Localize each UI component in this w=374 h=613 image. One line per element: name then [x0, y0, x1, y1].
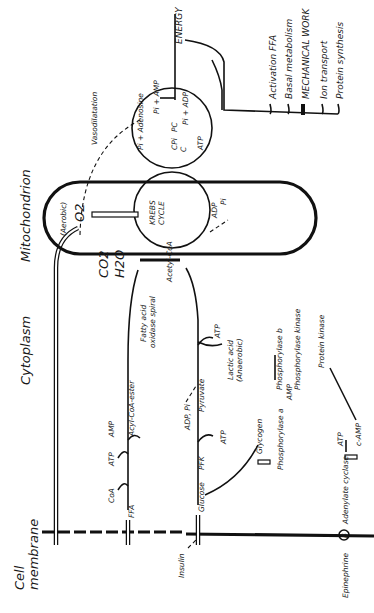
phosphorylase-b-label: Phosphorylase b — [275, 328, 284, 390]
vasodilatation-path — [80, 120, 140, 235]
cytoplasm-label: Cytoplasm — [18, 316, 33, 385]
fa-atp-label: ATP — [107, 452, 116, 467]
cell-membrane-label-line2: membrane — [26, 519, 41, 590]
c-label: C — [179, 146, 188, 152]
energy-atp-label: ATP — [196, 136, 205, 151]
epinephrine-label: Epinephrine — [341, 553, 350, 598]
lactic-acid-line2: (Anaerobic) — [235, 338, 244, 382]
signaling-amp-label: AMP — [285, 383, 294, 401]
pyruvate-atp-label: ATP — [213, 324, 222, 339]
pi-label: Pi — [219, 197, 228, 205]
acyl-coa-ester-label: Acyl-CoA-ester — [127, 380, 136, 437]
glycogen-label: Glycogen — [255, 419, 264, 454]
h2o-label: H2O — [112, 250, 127, 278]
ffa-pathway-line — [118, 435, 140, 545]
aerobic-label: (Aerobic) — [59, 202, 68, 236]
cpi-label: CPi — [170, 137, 179, 150]
phosphorylase-a-label: Phosphorylase a — [276, 408, 285, 470]
protein-kinase-label: Protein kinase — [317, 314, 326, 368]
krebs-label-line2: CYCLE — [157, 201, 166, 225]
signaling-atp-label: ATP — [336, 432, 345, 447]
mitochondrion-label: Mitochondrion — [18, 169, 33, 262]
ffa-label: FFA — [127, 505, 136, 518]
krebs-label-line1: KREBS — [148, 200, 157, 225]
pfk-label: PFK — [197, 455, 206, 470]
adp-label: ADP — [210, 202, 219, 219]
pi-amp-label: Pi + AMP — [152, 80, 161, 114]
vasodilatation-label: Vasodilatation — [90, 92, 99, 145]
pi-adp-label: Pi + ADP — [181, 91, 190, 125]
o2-krebs-link — [92, 212, 138, 217]
adp-pi-label: ADP, Pi — [183, 403, 192, 431]
fa-amp-label: AMP — [107, 420, 116, 438]
phosphorylase-kinase-label: Phosphorylase kinase — [293, 308, 302, 390]
cell-membrane-label-line1: Cell — [12, 565, 27, 590]
pc-label: PC — [170, 121, 179, 132]
energy-label: ENERGY — [174, 6, 184, 44]
output-activation-ffa: Activation FFA — [268, 35, 278, 100]
glucose-label: Glucose — [197, 482, 206, 512]
co2-label: CO2 — [96, 250, 111, 278]
insulin-dashed — [188, 540, 196, 548]
beta-receptor-label: β — [340, 533, 349, 538]
pyruvate-label: Pyruvate — [197, 378, 206, 412]
fatty-acid-spiral-line1: Fatty acid — [139, 305, 148, 342]
output-protein-synthesis: Protein synthesis — [335, 22, 345, 99]
adp-dashed — [210, 220, 228, 232]
lactic-acid-line1: Lactic acid — [226, 340, 235, 380]
coa-label: CoA — [107, 488, 116, 503]
glycolysis-atp-label: ATP — [219, 430, 228, 445]
insulin-label: Insulin — [177, 553, 186, 578]
metabolism-diagram: Cell membrane Cytoplasm Mitochondrion EN… — [0, 0, 374, 613]
pi-adenosine-label: Pi + Adenosine — [136, 93, 145, 150]
output-ion-transport: Ion transport — [319, 40, 329, 99]
oxygen-supply-tube — [56, 228, 78, 545]
cell-membrane — [42, 532, 374, 536]
output-mechanical-work: MECHANICAL WORK — [301, 7, 311, 99]
fatty-acid-spiral-line2: oxidase spiral — [148, 295, 157, 348]
acetyl-coa-label: Acetyl-CoA — [165, 241, 174, 283]
adenylate-cyclase-label: Adenylate cyclase — [341, 455, 350, 525]
output-basal-metabolism: Basal metabolism — [284, 18, 294, 99]
camp-label: c-AMP — [354, 423, 363, 446]
o2-label: O2 — [72, 203, 87, 222]
